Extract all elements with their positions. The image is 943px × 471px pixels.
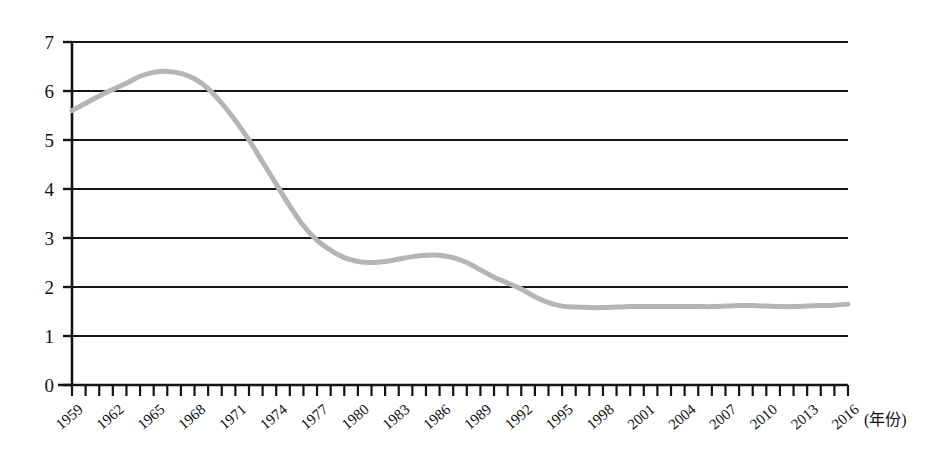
y-tick-label: 1 bbox=[45, 326, 55, 347]
x-tick-label: 1995 bbox=[543, 401, 576, 433]
y-tick-label: 3 bbox=[45, 228, 55, 249]
x-tick-label: 2013 bbox=[788, 401, 821, 433]
x-tick-label: 1992 bbox=[502, 401, 535, 433]
y-tick-label: 2 bbox=[45, 277, 55, 298]
x-axis-unit-label: (年份) bbox=[864, 411, 907, 429]
x-tick-label: 1977 bbox=[298, 401, 332, 433]
x-tick-label: 2010 bbox=[747, 401, 780, 433]
x-tick-label: 1974 bbox=[257, 401, 291, 433]
y-tick-label: 5 bbox=[45, 130, 55, 151]
x-tick-label: 1968 bbox=[175, 401, 208, 433]
y-tick-label: 4 bbox=[45, 179, 55, 200]
x-tick-label: 2007 bbox=[706, 401, 740, 433]
x-tick-label: 1962 bbox=[94, 401, 127, 433]
x-tick-label: 1965 bbox=[134, 401, 167, 433]
chart-container: 0123456719591962196519681971197419771980… bbox=[0, 0, 943, 471]
x-tick-label: 1971 bbox=[216, 401, 249, 433]
x-tick-label: 1989 bbox=[461, 401, 494, 433]
x-tick-label: 2016 bbox=[829, 401, 863, 433]
y-tick-label: 0 bbox=[45, 375, 55, 396]
x-tick-label: 2001 bbox=[624, 401, 657, 433]
x-tick-label: 1998 bbox=[584, 401, 617, 433]
x-tick-label: 2004 bbox=[665, 401, 699, 433]
line-chart: 0123456719591962196519681971197419771980… bbox=[0, 0, 943, 471]
x-tick-label: 1980 bbox=[339, 401, 372, 433]
y-tick-label: 6 bbox=[45, 81, 55, 102]
x-tick-label: 1986 bbox=[420, 401, 454, 433]
x-tick-label: 1983 bbox=[379, 401, 412, 433]
y-tick-label: 7 bbox=[45, 32, 55, 53]
x-tick-label: 1959 bbox=[53, 401, 86, 433]
